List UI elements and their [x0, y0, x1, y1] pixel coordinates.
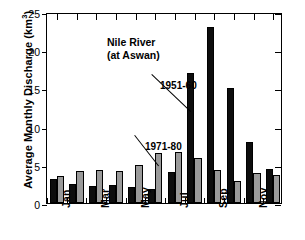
- x-axis-tick-label-Sep: Sep: [217, 188, 229, 208]
- y-axis-title-main: Average Monthly Discharge (km: [22, 19, 34, 189]
- chart-title-line-2: (at Aswan): [107, 49, 160, 62]
- y-axis-tick-label: 0: [34, 200, 40, 211]
- bar-group: [50, 14, 64, 203]
- x-axis-tick: [204, 198, 205, 203]
- bar-group: [89, 14, 103, 203]
- bar-group: [266, 14, 280, 203]
- x-axis-tick: [165, 198, 166, 203]
- bar-1951-60-Sep: [207, 27, 214, 203]
- x-axis-tick-label-Mar: Mar: [99, 189, 111, 208]
- x-axis-tick: [47, 198, 48, 203]
- y-axis-tick: [42, 129, 47, 130]
- y-axis-tick: [42, 52, 47, 53]
- bar-1951-60-Oct: [227, 88, 234, 203]
- x-axis-tick-label-Nov: Nov: [257, 188, 269, 208]
- bar-group: [168, 14, 182, 203]
- y-axis-tick-label: 15: [28, 85, 40, 96]
- bar-group: [207, 14, 221, 203]
- bar-group: [227, 14, 241, 203]
- bar-1951-60-Nov: [246, 142, 253, 203]
- x-axis-tick: [86, 198, 87, 203]
- bar-1971-80-Dec: [273, 175, 280, 203]
- bar-1971-80-Apr: [116, 171, 123, 203]
- bar-group: [69, 14, 83, 203]
- chart-title: Nile River (at Aswan): [107, 36, 160, 63]
- y-axis-tick: [42, 14, 47, 15]
- x-axis-tick-label-Jan: Jan: [60, 189, 72, 208]
- bar-1971-80-Oct: [234, 181, 241, 203]
- bar-group: [187, 14, 201, 203]
- bar-1971-80-Aug: [194, 158, 201, 203]
- y-axis-tick-label: 20: [28, 47, 40, 58]
- bar-1951-60-Jul: [168, 172, 175, 203]
- chart-figure: Average Monthly Discharge (km3) 05101520…: [0, 0, 305, 240]
- bar-1971-80-Feb: [76, 171, 83, 203]
- bar-group: [246, 14, 260, 203]
- right-axis-tick: [275, 205, 281, 206]
- bar-1951-60-Mar: [89, 186, 96, 203]
- x-axis-tick: [244, 198, 245, 203]
- y-axis-tick: [42, 205, 47, 206]
- bar-1951-60-May: [128, 187, 135, 203]
- annotation-1951-60: 1951-60: [160, 80, 197, 91]
- x-axis-tick: [126, 198, 127, 203]
- x-axis-tick-label-Jul: Jul: [178, 192, 190, 208]
- bar-1951-60-Aug: [187, 73, 194, 203]
- y-axis-title: Average Monthly Discharge (km3): [20, 0, 34, 200]
- y-axis-tick-label: 25: [28, 9, 40, 20]
- y-axis-tick-label: 5: [34, 162, 40, 173]
- x-axis-tick-label-May: May: [139, 187, 151, 208]
- y-axis-tick: [42, 90, 47, 91]
- annotation-1971-80: 1971-80: [145, 141, 182, 152]
- bar-1971-80-Jun: [155, 153, 162, 203]
- chart-title-line-1: Nile River: [107, 36, 160, 49]
- y-axis-tick: [42, 167, 47, 168]
- bar-1951-60-Jan: [50, 179, 57, 203]
- plot-area: 0510152025 Nile River (at Aswan) 1951-60…: [46, 13, 282, 204]
- y-axis-tick-label: 10: [28, 123, 40, 134]
